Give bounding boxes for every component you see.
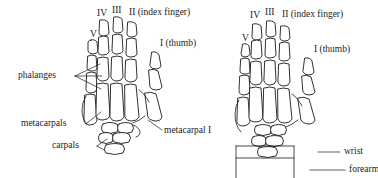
right-label-digit-i: I (thumb) — [314, 44, 350, 55]
left-label-metacarpals: metacarpals — [21, 118, 66, 129]
right-digit-iv-bones — [249, 24, 263, 122]
right-label-forearm: forearm — [349, 164, 378, 175]
left-digit-iii-bones — [110, 17, 124, 121]
right-digit-i-bones — [298, 58, 315, 124]
left-digit-iv-bones — [96, 20, 110, 120]
left-label-digit-ii: II (index finger) — [129, 7, 190, 18]
left-digit-ii-bones — [125, 22, 139, 121]
left-label-carpals: carpals — [52, 140, 79, 151]
right-digit-v-bones — [237, 44, 250, 126]
right-label-wrist: wrist — [344, 146, 363, 157]
right-digit-iii-bones — [263, 21, 277, 123]
left-label-metacarpal-i: metacarpal I — [164, 125, 211, 136]
right-hand-drawing — [235, 21, 315, 178]
left-carpal-bones — [99, 123, 141, 155]
skeleton-illustration — [0, 0, 378, 178]
left-label-digit-v: V — [90, 29, 97, 40]
left-label-digit-i: I (thumb) — [160, 38, 196, 49]
left-label-digit-iii: III — [112, 5, 122, 16]
right-label-digit-ii: II (index finger) — [282, 9, 343, 20]
left-label-digit-iv: IV — [97, 8, 107, 19]
right-leader-lines — [310, 152, 345, 170]
left-digit-i-bones — [145, 52, 162, 121]
hand-skeleton-figure: V IV III II (index finger) I (thumb) pha… — [0, 0, 378, 178]
right-label-digit-iv: IV — [250, 10, 260, 21]
right-digit-ii-bones — [278, 26, 292, 123]
left-label-phalanges: phalanges — [18, 70, 56, 81]
right-label-digit-v: V — [242, 33, 249, 44]
right-label-digit-iii: III — [265, 7, 275, 18]
right-carpal-bones — [252, 125, 287, 158]
